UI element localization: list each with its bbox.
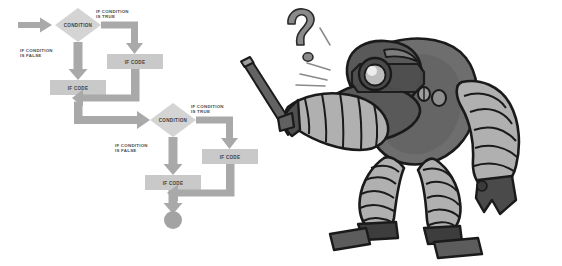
svg-text:IF CONDITION: IF CONDITION (96, 9, 129, 14)
svg-text:IF CODE: IF CODE (68, 86, 89, 91)
svg-text:IF CONDITION: IF CONDITION (191, 104, 224, 109)
decision-node-lower-label: CONDITION (159, 118, 188, 123)
if-code-node-upper-true: IF CODE (107, 54, 163, 69)
decision-node-upper-label: CONDITION (64, 23, 93, 28)
if-code-node-upper-false: IF CODE (50, 80, 106, 95)
svg-text:IF CONDITION: IF CONDITION (115, 143, 148, 148)
illustration-canvas: CONDITION IF CONDITION IS TRUE IF CODE I… (0, 0, 562, 266)
svg-text:IF CODE: IF CODE (125, 60, 146, 65)
svg-text:IF CODE: IF CODE (220, 155, 241, 160)
svg-text:IS FALSE: IS FALSE (115, 148, 137, 153)
svg-text:IF CODE: IF CODE (163, 181, 184, 186)
if-code-node-lower-false: IF CODE (145, 175, 201, 190)
eye-highlight (367, 66, 377, 76)
svg-text:IS TRUE: IS TRUE (191, 109, 210, 114)
svg-text:IS TRUE: IS TRUE (96, 14, 115, 19)
end-terminator-node (164, 211, 182, 229)
if-code-node-lower-true: IF CODE (202, 149, 258, 164)
svg-text:IF CONDITION: IF CONDITION (20, 48, 53, 53)
svg-text:IS FALSE: IS FALSE (20, 53, 42, 58)
